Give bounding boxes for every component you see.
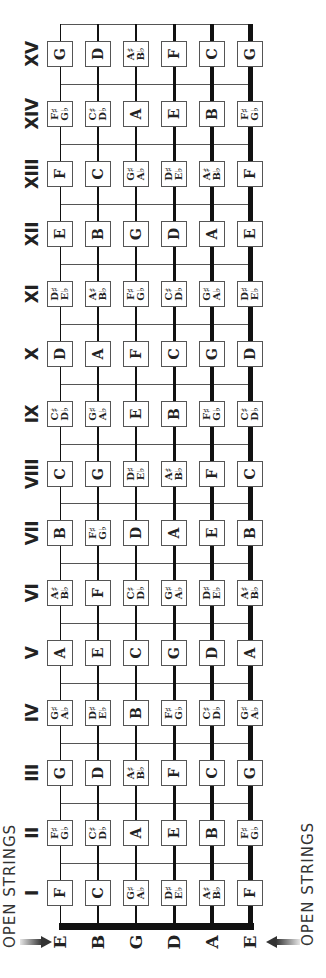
note-box: C	[237, 461, 263, 487]
note-box: D	[123, 520, 149, 546]
note-label: C	[91, 168, 105, 179]
note-box: G♯A♭	[237, 700, 263, 726]
note-box: B	[123, 700, 149, 726]
fret-wire	[60, 84, 250, 85]
note-box: A	[161, 520, 187, 546]
flat-name: E♭	[250, 288, 260, 300]
note-box: G	[123, 221, 149, 247]
natural-name: B	[53, 527, 67, 539]
flat-name: D♭	[250, 407, 260, 420]
note-label: G♯A♭	[126, 886, 146, 899]
flat-name: D♭	[98, 107, 108, 120]
fret-number-VIII: VIII	[17, 462, 47, 486]
note-box: F	[47, 161, 73, 187]
note-label: B	[129, 707, 143, 719]
note-label: E	[205, 528, 219, 539]
fret-number-label: XIII	[22, 159, 42, 189]
natural-name: E	[91, 648, 105, 659]
note-label: G	[53, 767, 67, 779]
note-box: F	[47, 880, 73, 906]
note-box: B	[85, 221, 111, 247]
natural-name: A	[243, 648, 257, 659]
note-label: A♯B♭	[202, 886, 222, 899]
fret-wire	[60, 144, 250, 145]
note-box: G	[237, 41, 263, 67]
fret-number-X: X	[17, 342, 47, 366]
natural-name: E	[129, 409, 143, 420]
note-box: A♯B♭	[161, 461, 187, 487]
flat-name: B♭	[98, 287, 108, 300]
note-label: G♯A♭	[202, 287, 222, 300]
natural-name: F	[205, 469, 219, 479]
note-label: C♯D♭	[126, 586, 146, 599]
note-label: A	[129, 109, 143, 120]
note-label: F♯G♭	[88, 526, 108, 539]
arrow-left-icon	[266, 938, 300, 946]
natural-name: C	[53, 468, 67, 479]
note-label: F♯G♭	[126, 287, 146, 300]
note-box: E	[237, 221, 263, 247]
note-label: D♯E♭	[240, 287, 260, 301]
fret-wire	[60, 204, 250, 205]
open-string-name: A	[202, 935, 222, 948]
flat-name: B♭	[136, 47, 146, 60]
fret-number-XIV: XIV	[17, 102, 47, 126]
natural-name: G	[205, 348, 219, 360]
note-box: G	[199, 341, 225, 367]
flat-name: B♭	[174, 467, 184, 480]
fret-wire	[60, 324, 250, 325]
note-label: C	[167, 348, 181, 359]
note-label: C	[205, 48, 219, 59]
fret-wire	[60, 623, 250, 624]
note-box: C♯D♭	[85, 101, 111, 127]
open-string-label: A	[200, 930, 224, 954]
fret-number-I: I	[17, 881, 47, 905]
note-label: D	[129, 527, 143, 539]
note-label: G♯A♭	[50, 706, 70, 719]
note-box: E	[199, 520, 225, 546]
flat-name: G♭	[212, 407, 222, 420]
note-box: F♯G♭	[123, 281, 149, 307]
note-box: A	[123, 101, 149, 127]
note-label: A♯B♭	[88, 287, 108, 300]
note-label: C♯D♭	[202, 706, 222, 719]
flat-name: G♭	[136, 287, 146, 300]
fret-number-label: VIII	[22, 459, 42, 489]
fret-number-label: XV	[22, 41, 42, 66]
note-box: G	[47, 41, 73, 67]
note-label: D♯E♭	[126, 467, 146, 481]
note-label: G♯A♭	[240, 706, 260, 719]
flat-name: E♭	[212, 587, 222, 599]
note-label: C	[205, 767, 219, 778]
natural-name: F	[243, 169, 257, 179]
note-box: D	[85, 41, 111, 67]
natural-name: B	[205, 108, 219, 120]
fret-number-label: XI	[22, 285, 42, 303]
flat-name: E♭	[136, 468, 146, 480]
note-box: F	[237, 161, 263, 187]
note-label: B	[53, 527, 67, 539]
fret-wire	[60, 683, 250, 684]
note-label: D	[243, 348, 257, 360]
note-box: A	[123, 820, 149, 846]
note-box: A♯B♭	[199, 880, 225, 906]
note-label: D	[53, 348, 67, 360]
note-label: D	[91, 48, 105, 60]
note-label: F	[53, 888, 67, 898]
note-label: A♯B♭	[240, 586, 260, 599]
note-box: A	[85, 341, 111, 367]
fret-wire	[60, 24, 250, 25]
open-string-name: D	[164, 935, 184, 950]
fret-number-IX: IX	[17, 402, 47, 426]
natural-name: B	[129, 707, 143, 719]
note-label: A	[129, 828, 143, 839]
note-label: E	[167, 828, 181, 839]
fret-number-label: XIV	[22, 98, 42, 129]
fret-number-II: II	[17, 821, 47, 845]
natural-name: D	[205, 647, 219, 659]
note-label: F	[91, 588, 105, 598]
natural-name: C	[91, 168, 105, 179]
fretboard-diagram: OPEN STRINGS OPEN STRINGS IFCG♯A♭D♯E♭A♯B…	[0, 0, 326, 978]
note-label: B	[205, 108, 219, 120]
fret-wire	[60, 863, 250, 864]
